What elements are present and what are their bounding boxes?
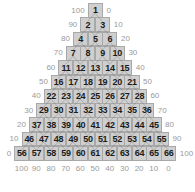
bottom-axis-label: 60 [72,164,88,174]
grid-cell: 8 [80,46,95,61]
grid-cell: 46 [22,132,37,147]
grid-cell: 63 [117,146,132,161]
right-axis-label: 80 [165,120,187,130]
grid-cell: 42 [102,117,117,132]
bottom-axis-label: 100 [14,164,30,174]
grid-cell: 20 [110,75,125,90]
grid-cell: 5 [88,32,103,47]
grid-cell: 51 [95,132,110,147]
grid-cell: 12 [73,60,88,75]
grid-cell: 29 [36,103,51,118]
grid-cell: 7 [66,46,81,61]
grid-cell: 32 [80,103,95,118]
left-axis-label: 10 [0,134,19,144]
grid-cell: 30 [51,103,66,118]
grid-cell: 60 [73,146,88,161]
grid-cell: 26 [102,89,117,104]
right-axis-label: 90 [173,134,195,144]
right-axis-label: 60 [150,91,172,101]
grid-cell: 61 [88,146,103,161]
grid-cell: 64 [132,146,147,161]
grid-cell: 45 [146,117,161,132]
grid-cell: 40 [73,117,88,132]
grid-cell: 27 [117,89,132,104]
grid-cell: 53 [124,132,139,147]
ternary-grid-diagram: 1100023901045680207891070301112131415604… [0,0,195,192]
grid-cell: 54 [139,132,154,147]
left-axis-label: 50 [26,77,48,87]
grid-cell: 44 [132,117,147,132]
grid-cell: 4 [73,32,88,47]
grid-cell: 47 [36,132,51,147]
grid-cell: 49 [66,132,81,147]
right-axis-label: 20 [121,34,143,44]
grid-cell: 56 [14,146,29,161]
grid-cell: 9 [95,46,110,61]
grid-cell: 25 [88,89,103,104]
grid-cell: 21 [124,75,139,90]
grid-cell: 39 [58,117,73,132]
right-axis-label: 100 [180,149,195,159]
bottom-axis-label: 80 [43,164,59,174]
grid-cell: 37 [29,117,44,132]
grid-cell: 6 [102,32,117,47]
left-axis-label: 20 [4,120,26,130]
bottom-axis-label: 0 [161,164,177,174]
left-axis-label: 60 [33,63,55,73]
grid-cell: 33 [95,103,110,118]
left-axis-label: 90 [55,20,77,30]
grid-cell: 66 [161,146,176,161]
grid-cell: 10 [110,46,125,61]
left-axis-label: 70 [41,48,63,58]
grid-cell: 22 [44,89,59,104]
grid-cell: 62 [102,146,117,161]
grid-cell: 19 [95,75,110,90]
bottom-axis-label: 50 [87,164,103,174]
left-axis-label: 40 [19,91,41,101]
grid-cell: 34 [110,103,125,118]
left-axis-label: 100 [63,6,85,16]
bottom-axis-label: 90 [28,164,44,174]
grid-cell: 41 [88,117,103,132]
grid-cell: 38 [44,117,59,132]
grid-cell: 17 [66,75,81,90]
grid-cell: 14 [102,60,117,75]
right-axis-label: 40 [136,63,158,73]
grid-cell: 15 [117,60,132,75]
bottom-axis-label: 10 [146,164,162,174]
grid-cell: 16 [51,75,66,90]
grid-cell: 55 [154,132,169,147]
grid-cell: 58 [44,146,59,161]
grid-cell: 28 [132,89,147,104]
bottom-axis-label: 40 [102,164,118,174]
bottom-axis-label: 70 [58,164,74,174]
grid-cell: 65 [146,146,161,161]
right-axis-label: 50 [143,77,165,87]
grid-cell: 3 [95,17,110,32]
bottom-axis-label: 30 [116,164,132,174]
right-axis-label: 30 [128,48,150,58]
right-axis-label: 70 [158,106,180,116]
grid-cell: 18 [80,75,95,90]
left-axis-label: 30 [11,106,33,116]
grid-cell: 36 [139,103,154,118]
grid-cell: 43 [117,117,132,132]
left-axis-label: 80 [48,34,70,44]
grid-cell: 48 [51,132,66,147]
grid-cell: 13 [88,60,103,75]
bottom-axis-label: 20 [131,164,147,174]
grid-cell: 31 [66,103,81,118]
grid-cell: 11 [58,60,73,75]
right-axis-label: 0 [106,6,128,16]
grid-cell: 2 [80,17,95,32]
grid-cell: 35 [124,103,139,118]
right-axis-label: 10 [114,20,136,30]
grid-cell: 59 [58,146,73,161]
left-axis-label: 0 [0,149,11,159]
grid-cell: 50 [80,132,95,147]
grid-cell: 24 [73,89,88,104]
grid-cell: 57 [29,146,44,161]
grid-cell: 23 [58,89,73,104]
grid-cell: 52 [110,132,125,147]
grid-cell: 1 [88,3,103,18]
